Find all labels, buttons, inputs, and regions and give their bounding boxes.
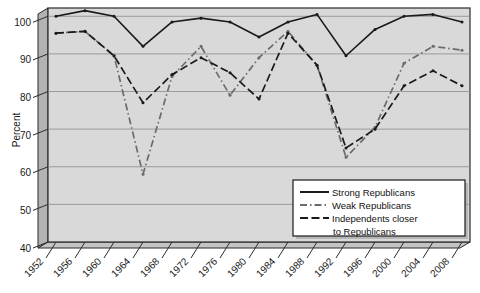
data-point-2-1996	[374, 128, 377, 131]
data-point-1-1964	[142, 173, 145, 176]
axis-wall-bottom	[38, 242, 470, 248]
data-point-2-2000	[403, 84, 406, 87]
data-point-2-1964	[142, 101, 145, 104]
y-tick-label-100: 100	[14, 17, 31, 28]
data-point-0-1952	[55, 15, 58, 18]
legend-label-3: to Republicans	[333, 226, 396, 237]
data-point-1-2008	[461, 49, 464, 52]
data-point-0-1964	[142, 45, 145, 48]
republican-party-loyalty-line-chart: 405060708090100 195219561960196419681972…	[0, 0, 480, 293]
data-point-0-1972	[200, 17, 203, 20]
legend-label-1: Weak Republicans	[332, 200, 411, 211]
data-point-0-1976	[229, 20, 232, 23]
data-point-0-2000	[403, 15, 406, 18]
y-tick-label-40: 40	[20, 243, 32, 254]
data-point-0-1968	[171, 20, 174, 23]
data-point-0-1988	[316, 13, 319, 16]
data-point-0-1980	[258, 35, 261, 38]
data-point-0-1956	[84, 9, 87, 12]
data-point-2-1968	[171, 73, 174, 76]
data-point-1-2004	[432, 45, 435, 48]
y-tick-label-50: 50	[20, 205, 32, 216]
data-point-0-1996	[374, 28, 377, 31]
data-point-1-2000	[403, 62, 406, 65]
data-point-0-1984	[287, 20, 290, 23]
data-point-0-1992	[345, 54, 348, 57]
legend-label-0: Strong Republicans	[332, 187, 415, 198]
y-tick-label-60: 60	[20, 167, 32, 178]
chart-container: 405060708090100 195219561960196419681972…	[0, 0, 480, 293]
data-point-1-1980	[258, 56, 261, 59]
data-point-2-2008	[461, 84, 464, 87]
data-point-0-2008	[461, 20, 464, 23]
axis-wall-left	[38, 8, 48, 248]
data-point-2-1960	[113, 54, 116, 57]
y-tick-label-90: 90	[20, 54, 32, 65]
data-point-0-1960	[113, 15, 116, 18]
data-point-1-1976	[229, 94, 232, 97]
data-point-2-2004	[432, 69, 435, 72]
legend-label-2: Independents closer	[332, 213, 418, 224]
data-point-2-1984	[287, 32, 290, 35]
data-point-2-1988	[316, 64, 319, 67]
data-point-2-1992	[345, 146, 348, 149]
data-point-1-1992	[345, 156, 348, 159]
data-point-0-2004	[432, 13, 435, 16]
data-point-2-1980	[258, 98, 261, 101]
y-tick-label-80: 80	[20, 92, 32, 103]
data-point-2-1976	[229, 71, 232, 74]
data-point-2-1956	[84, 30, 87, 33]
chart-legend: Strong RepublicansWeak RepublicansIndepe…	[293, 180, 468, 239]
data-point-2-1972	[200, 56, 203, 59]
data-point-1-1972	[200, 45, 203, 48]
y-axis-title: Percent	[11, 113, 22, 148]
data-point-2-1952	[55, 32, 58, 35]
